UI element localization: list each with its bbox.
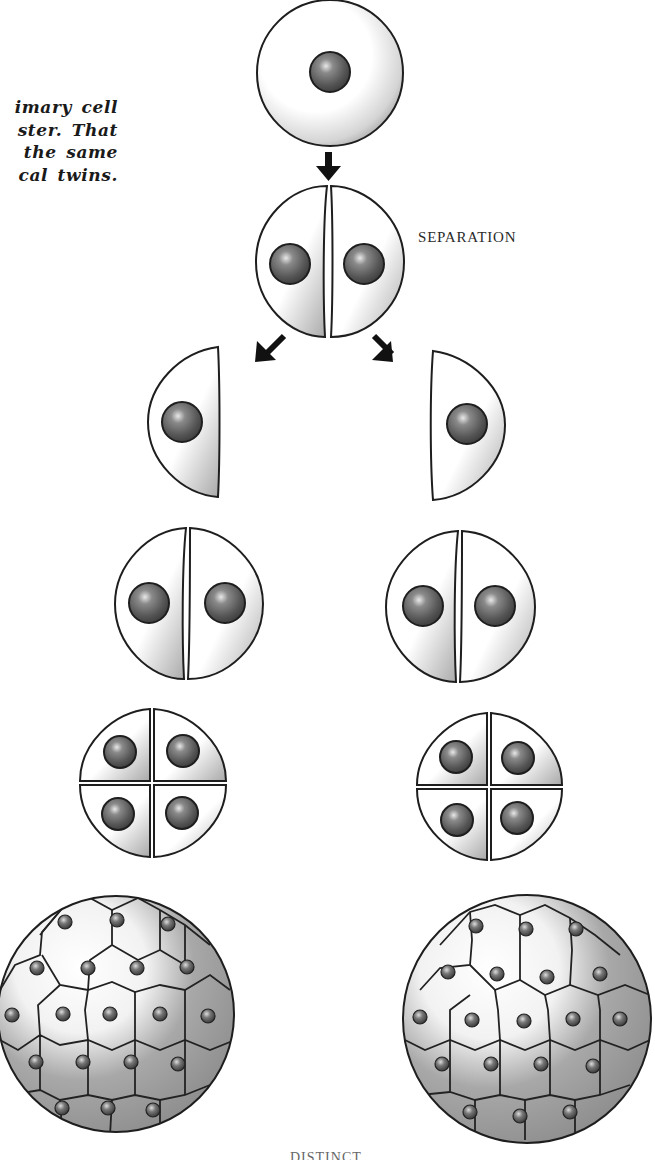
blastula-right [403,895,651,1143]
separated-half-left [148,347,220,497]
two-cell-left [115,528,263,679]
separated-half-right [431,351,505,500]
two-cell-right [386,531,535,682]
two-cell-stage [256,186,404,337]
single-cell [257,0,403,146]
four-cell-right [417,713,562,860]
arrow-down-icon [316,152,341,181]
arrow-down-left-icon [255,336,284,362]
blastula-left [0,896,235,1135]
arrow-down-right-icon [372,336,393,362]
four-cell-left [80,709,226,857]
